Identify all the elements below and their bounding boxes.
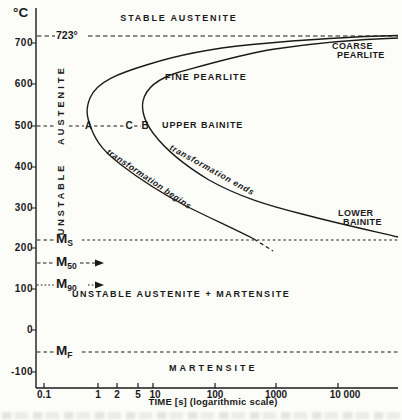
unstable-austenite-vertical-bottom: UNSTABLE <box>57 163 66 235</box>
y-tick-m100: -100 <box>7 367 33 377</box>
x-axis-ticks <box>44 383 338 388</box>
upper-bainite-label: UPPER BAINITE <box>162 121 243 130</box>
y-tick-400: 400 <box>7 162 33 172</box>
x-tick-5: 5 <box>135 390 141 400</box>
y-tick-0: 0 <box>7 325 33 335</box>
x-tick-1: 1 <box>95 390 101 400</box>
coarse-pearlite-label: COARSE PEARLITE <box>332 42 385 60</box>
y-tick-300: 300 <box>7 203 33 213</box>
ms-label: MS <box>56 232 73 248</box>
eutectoid-temp-label: 723° <box>56 30 78 41</box>
begins-curve-dashed-tail <box>254 239 273 251</box>
martensite-region-label: MARTENSITE <box>169 364 258 373</box>
y-tick-600: 600 <box>7 79 33 89</box>
unstable-austenite-vertical-top: AUSTENITE <box>57 65 66 145</box>
cropped-caption-remnant <box>2 412 400 419</box>
y-tick-100: 100 <box>7 284 33 294</box>
point-b-label: B <box>142 121 149 131</box>
x-tick-0p1: 0.1 <box>37 390 51 400</box>
m50-label: M50 <box>56 255 77 271</box>
y-tick-200: 200 <box>7 243 33 253</box>
point-c-label: C <box>126 121 133 131</box>
m50-arrow-icon <box>95 260 104 267</box>
m90-arrow-icon <box>95 282 104 289</box>
stable-austenite-label: STABLE AUSTENITE <box>120 14 237 23</box>
unstable-austenite-plus-martensite-label: UNSTABLE AUSTENITE + MARTENSITE <box>72 290 290 299</box>
fine-pearlite-label: FINE PEARLITE <box>165 73 247 82</box>
mf-label: MF <box>56 344 72 360</box>
lower-bainite-label: LOWER BAINITE <box>338 209 382 227</box>
x-tick-2: 2 <box>114 390 120 400</box>
x-tick-10000: 10 000 <box>330 390 361 400</box>
y-tick-500: 500 <box>7 121 33 131</box>
ttt-diagram-figure: °C STABLE AUSTENITE 723° 700 600 500 400… <box>0 0 402 420</box>
point-a-label: A <box>85 121 92 131</box>
x-axis-title: TIME [s] (logarithmic scale) <box>148 397 277 407</box>
y-axis-unit: °C <box>13 6 28 20</box>
y-tick-700: 700 <box>7 38 33 48</box>
